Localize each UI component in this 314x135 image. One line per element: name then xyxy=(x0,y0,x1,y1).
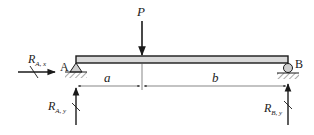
support-a-label: A xyxy=(60,60,69,74)
reaction-by-label: RB, y xyxy=(263,101,283,117)
dimension-b-label: b xyxy=(212,70,219,85)
reaction-by: RB, y xyxy=(263,84,292,125)
reaction-ay-label: RA, y xyxy=(47,99,67,115)
reaction-ax-label: RA, x xyxy=(27,52,47,68)
dimension-line: a b xyxy=(78,70,286,86)
beam-diagram: P A B a b RA, x RA, y RB, y xyxy=(0,0,314,135)
support-b-label: B xyxy=(295,57,303,71)
load-p: P xyxy=(136,4,145,90)
reaction-ax: RA, x xyxy=(18,52,55,78)
reaction-ay: RA, y xyxy=(47,88,80,125)
beam xyxy=(76,56,288,63)
dimension-a-label: a xyxy=(104,70,111,85)
load-p-label: P xyxy=(136,4,145,19)
